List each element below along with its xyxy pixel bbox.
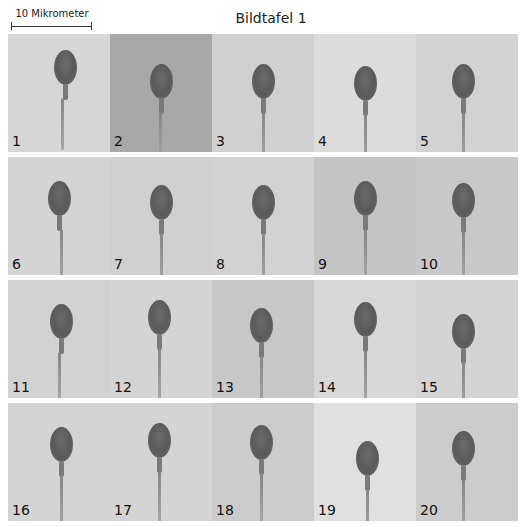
micrograph-grid: 1234567891011121314151617181920 bbox=[8, 34, 518, 521]
sperm-tail bbox=[260, 473, 263, 521]
sperm-head bbox=[252, 185, 275, 220]
scale-bar-line bbox=[11, 26, 91, 27]
micrograph-panel: 3 bbox=[212, 34, 314, 152]
sperm-head bbox=[250, 425, 273, 460]
sperm-head bbox=[452, 314, 475, 349]
sperm-head bbox=[50, 304, 73, 339]
sperm-tail bbox=[262, 112, 265, 152]
sperm-tail bbox=[364, 114, 367, 152]
plate-title: Bildtafel 1 bbox=[0, 10, 528, 26]
micrograph-panel: 7 bbox=[110, 157, 212, 275]
micrograph-panel: 10 bbox=[416, 157, 518, 275]
panel-number: 14 bbox=[318, 379, 336, 395]
sperm-midpiece bbox=[63, 84, 68, 100]
sperm-head bbox=[252, 64, 275, 99]
sperm-tail bbox=[462, 112, 465, 152]
panel-number: 3 bbox=[216, 133, 225, 149]
micrograph-panel: 17 bbox=[110, 403, 212, 521]
panel-number: 11 bbox=[12, 379, 30, 395]
sperm-tail bbox=[262, 233, 265, 275]
grid-row: 1617181920 bbox=[8, 403, 518, 521]
micrograph-panel: 6 bbox=[8, 157, 110, 275]
panel-number: 5 bbox=[420, 133, 429, 149]
sperm-tail bbox=[158, 471, 161, 521]
sperm-head bbox=[452, 183, 475, 218]
sperm-tail bbox=[61, 98, 64, 150]
sperm-head bbox=[354, 66, 377, 101]
panel-number: 16 bbox=[12, 502, 30, 518]
micrograph-panel: 16 bbox=[8, 403, 110, 521]
panel-number: 19 bbox=[318, 502, 336, 518]
sperm-tail bbox=[364, 350, 367, 398]
sperm-head bbox=[48, 181, 71, 216]
sperm-head bbox=[50, 427, 73, 462]
sperm-head bbox=[354, 302, 377, 337]
sperm-tail bbox=[462, 479, 465, 521]
panel-number: 2 bbox=[114, 133, 123, 149]
micrograph-panel: 12 bbox=[110, 280, 212, 398]
panel-number: 7 bbox=[114, 256, 123, 272]
micrograph-panel: 18 bbox=[212, 403, 314, 521]
sperm-head bbox=[148, 300, 171, 335]
micrograph-panel: 13 bbox=[212, 280, 314, 398]
panel-number: 17 bbox=[114, 502, 132, 518]
panel-number: 18 bbox=[216, 502, 234, 518]
micrograph-panel: 9 bbox=[314, 157, 416, 275]
sperm-head bbox=[148, 423, 171, 458]
sperm-head bbox=[452, 431, 475, 466]
sperm-head bbox=[354, 181, 377, 216]
sperm-tail bbox=[60, 475, 63, 521]
panel-number: 12 bbox=[114, 379, 132, 395]
sperm-tail bbox=[260, 356, 263, 398]
sperm-tail bbox=[159, 112, 162, 152]
sperm-tail bbox=[160, 233, 163, 275]
sperm-head bbox=[150, 185, 173, 220]
sperm-tail bbox=[366, 489, 369, 521]
panel-number: 8 bbox=[216, 256, 225, 272]
sperm-tail bbox=[58, 352, 61, 398]
micrograph-panel: 8 bbox=[212, 157, 314, 275]
micrograph-panel: 4 bbox=[314, 34, 416, 152]
micrograph-panel: 14 bbox=[314, 280, 416, 398]
sperm-tail bbox=[158, 348, 161, 398]
panel-number: 6 bbox=[12, 256, 21, 272]
panel-number: 15 bbox=[420, 379, 438, 395]
micrograph-panel: 20 bbox=[416, 403, 518, 521]
grid-row: 12345 bbox=[8, 34, 518, 152]
sperm-head bbox=[356, 441, 379, 476]
sperm-head bbox=[150, 64, 173, 99]
grid-row: 1112131415 bbox=[8, 280, 518, 398]
micrograph-panel: 5 bbox=[416, 34, 518, 152]
sperm-tail bbox=[462, 362, 465, 398]
micrograph-panel: 2 bbox=[110, 34, 212, 152]
grid-row: 678910 bbox=[8, 157, 518, 275]
panel-number: 4 bbox=[318, 133, 327, 149]
panel-number: 9 bbox=[318, 256, 327, 272]
panel-number: 1 bbox=[12, 133, 21, 149]
panel-number: 10 bbox=[420, 256, 438, 272]
micrograph-panel: 19 bbox=[314, 403, 416, 521]
panel-number: 20 bbox=[420, 502, 438, 518]
micrograph-panel: 11 bbox=[8, 280, 110, 398]
sperm-head bbox=[452, 64, 475, 99]
sperm-head bbox=[54, 50, 77, 85]
sperm-tail bbox=[364, 229, 367, 275]
sperm-tail bbox=[462, 231, 465, 275]
sperm-tail bbox=[60, 229, 63, 275]
micrograph-panel: 1 bbox=[8, 34, 110, 152]
micrograph-panel: 15 bbox=[416, 280, 518, 398]
panel-number: 13 bbox=[216, 379, 234, 395]
sperm-head bbox=[250, 308, 273, 343]
